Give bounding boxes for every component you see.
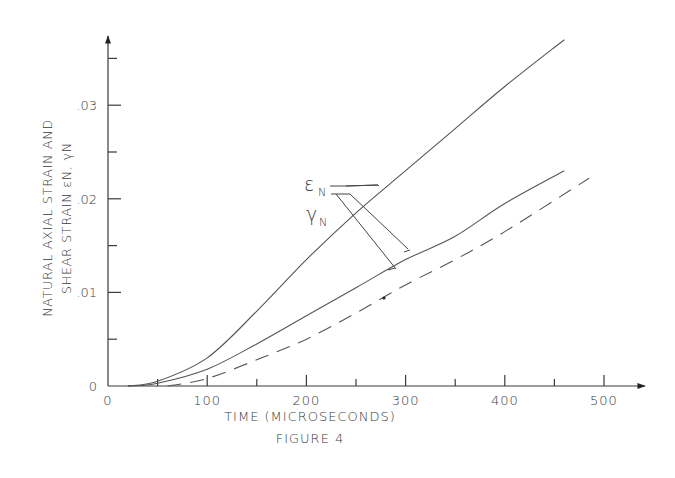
gamma-subscript: N — [319, 216, 327, 229]
y-tick-label: .01 — [76, 285, 97, 300]
y-axis-label-line1: NATURAL AXIAL STRAIN AND — [40, 119, 55, 317]
x-axis-label: TIME (MICROSECONDS) — [224, 409, 396, 424]
y-tick-label: .02 — [76, 192, 97, 207]
curve-annotations: ε N γ N — [304, 173, 410, 270]
gamma-leader-tip-solid — [404, 250, 410, 252]
x-tick-label: 300 — [392, 393, 420, 408]
x-tick-label: 500 — [590, 393, 618, 408]
x-tick-label: 400 — [491, 393, 519, 408]
strain-vs-time-chart: 0100200300400500 0.01.02.03 ε N γ N NATU… — [0, 0, 675, 478]
gamma-n-annotation: γ N — [306, 203, 327, 229]
leader-lines — [331, 194, 410, 270]
epsilon-n-annotation: ε N — [304, 173, 379, 199]
y-tick-label: 0 — [89, 379, 97, 394]
x-tick-label: 0 — [103, 393, 112, 408]
stray-dot — [382, 296, 385, 299]
gamma-symbol: γ — [306, 203, 317, 225]
gamma-n-dashed-curve — [168, 178, 590, 386]
epsilon-pointer — [346, 185, 379, 186]
x-tick-label: 100 — [193, 393, 221, 408]
y-ticks: 0.01.02.03 — [76, 58, 121, 394]
figure-caption: FIGURE 4 — [276, 431, 345, 446]
gamma-n-curve — [128, 171, 564, 386]
x-tick-label: 200 — [292, 393, 320, 408]
axes: 0100200300400500 0.01.02.03 — [76, 36, 645, 408]
gamma-leader-to-dashed — [336, 194, 396, 269]
y-axis-label: NATURAL AXIAL STRAIN AND SHEAR STRAIN εN… — [40, 119, 74, 317]
epsilon-symbol: ε — [304, 173, 314, 195]
epsilon-subscript: N — [318, 186, 326, 199]
y-axis-label-line2: SHEAR STRAIN εN, γN — [59, 142, 74, 294]
x-ticks: 0100200300400500 — [103, 375, 618, 408]
plot-curves — [128, 40, 589, 386]
y-tick-label: .03 — [76, 98, 97, 113]
epsilon-n-curve — [128, 40, 564, 386]
